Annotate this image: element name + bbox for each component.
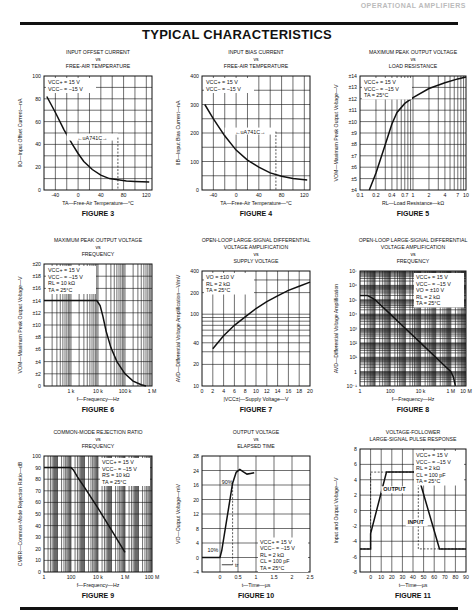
y-tick-label: ±4 [35,359,41,365]
x-tick-label: 16 [286,388,292,394]
y-tick-label: 24 [193,468,199,474]
y-tick-label: 20 [193,361,199,367]
y-tick-label: 60 [35,119,41,125]
legend-entry: VCC− = −15 V [364,86,399,92]
x-tick-label: 80 [279,192,285,198]
y-tick-label: ±6 [351,164,357,170]
legend-entry: VCC− = −15 V [206,86,241,92]
legend-entry: RL = 2 kΩ [416,294,440,300]
y-tick-label: ±12 [348,96,357,102]
annotation-rise-time: tr [235,562,238,568]
chart-title: OPEN-LOOP LARGE-SIGNAL DIFFERENTIAL [359,237,468,243]
y-tick-label: ±14 [348,73,357,79]
y-tick-label: 0 [38,383,41,389]
legend-entry: VCC+ = 15 V [416,452,448,458]
figure-caption: FIGURE 10 [238,592,274,599]
figure-caption: FIGURE 8 [397,406,429,413]
y-tick-label: 2 [354,492,357,498]
x-axis-label: |VCC±|—Supply Voltage—V [224,396,289,402]
x-tick-label: 1 k [68,388,75,394]
chart-title: OPEN-LOOP LARGE-SIGNAL DIFFERENTIAL [202,237,311,243]
x-tick-label: 10 [378,574,384,580]
figure-caption: FIGURE 5 [397,210,429,217]
legend-entry: RL = 2 kΩ [260,552,284,558]
y-tick-label: 70 [35,488,41,494]
y-tick-label: 90 [35,465,41,471]
x-tick-label: 100 [386,388,395,394]
y-tick-label: 10⁻¹ [347,383,358,389]
legend-entry: TA = 25°C [206,287,230,293]
chart-title: INPUT BIAS CURRENT [228,49,284,55]
x-tick-label: 1 M [148,388,157,394]
x-axis-label: t—Time—µs [399,582,428,588]
chart-title: VOLTAGE AMPLIFICATION [381,244,446,250]
legend-entry: VCC+ = 15 V [48,79,80,85]
y-tick-label: ±11 [349,107,357,113]
x-tick-label: 100 [67,574,76,580]
y-axis-label: IIB—Input Bias Current—nA [175,100,181,165]
y-tick-label: 1 [354,369,357,375]
legend-entry: RL = 2 kΩ [416,465,440,471]
x-tick-label: 10 k [416,388,426,394]
x-tick-label: 0 [77,192,80,198]
annotation-10pct: 10% [207,547,218,553]
legend-entry: TA = 25°C [48,287,72,293]
x-tick-label: 90 [463,574,469,580]
y-axis-label: VO—Output Voltage—mV [175,483,181,544]
range-annotation: ←uA741C→ [235,129,265,135]
figure-caption: FIGURE 9 [82,592,114,599]
chart-title: SUPPLY VOLTAGE [233,258,279,264]
chart-title: MAXIMUM PEAK OUTPUT VOLTAGE [54,237,143,243]
y-tick-label: ±7 [351,153,357,159]
x-tick-label: 0.2 [372,192,379,198]
y-tick-label: 400 [190,268,199,274]
y-tick-label: 30 [35,534,41,540]
chart-title: vs [95,244,101,250]
x-tick-label: 30 [400,574,406,580]
figure-10: OUTPUT VOLTAGEvsELAPSED TIME00.511.522.5… [158,424,318,604]
y-tick-label: ±6 [35,346,41,352]
series-label: OUTPUT [383,486,406,492]
y-tick-label: 20 [193,497,199,503]
y-tick-label: ±8 [351,141,357,147]
legend-entry: VCC+ = 15 V [364,79,396,85]
x-tick-label: 50 [421,574,427,580]
y-tick-label: 0 [38,187,41,193]
y-tick-label: ±4 [351,187,357,193]
legend-entry: TA = 25°C [416,300,440,306]
x-tick-label: 1 [359,388,362,394]
chart-title: LARGE-SIGNAL PULSE RESPONSE [370,436,457,442]
y-tick-label: 300 [190,102,199,108]
x-tick-label: 1 [255,574,258,580]
y-tick-label: 16 [193,482,199,488]
x-tick-label: 120 [142,192,151,198]
y-tick-label: 28 [193,453,199,459]
y-tick-label: 10⁴ [349,311,357,317]
x-tick-label: 0.1 [356,192,363,198]
y-tick-label: 8 [196,526,199,532]
legend-entry: TA = 25°C [416,478,440,484]
x-axis-label: f—Frequency—Hz [392,396,435,402]
y-tick-label: 20 [35,546,41,552]
y-axis-label: IIO—Input Offset Current—nA [17,98,23,168]
x-tick-label: 6 [233,388,236,394]
chart-title: FREQUENCY [82,443,115,449]
chart-title: LOAD RESISTANCE [389,63,438,69]
legend-entry: RS = 10 kΩ [102,472,130,478]
x-tick-label: 0.7 [401,192,408,198]
figure-caption: FIGURE 4 [240,210,272,217]
figure-3: INPUT OFFSET CURRENTvsFREE-AIR TEMPERATU… [0,44,160,222]
legend-entry: VCC− = −15 V [48,86,83,92]
x-tick-label: 4 [222,388,225,394]
x-axis-label: f—Frequency—Hz [77,582,120,588]
y-axis-label: Input and Output Voltage—V [333,477,339,544]
chart-title: VOLTAGE AMPLIFICATION [224,244,289,250]
x-tick-label: -40 [52,192,60,198]
figure-4: INPUT BIAS CURRENTvsFREE-AIR TEMPERATURE… [158,44,318,222]
chart-title: vs [253,251,259,257]
x-tick-label: 4 [443,192,446,198]
x-tick-label: 0.5 [234,574,241,580]
legend-entry: VCC+ = 15 V [102,459,134,465]
y-axis-label: AVD—Differential Voltage Amplification [333,284,339,374]
data-series [44,301,146,386]
